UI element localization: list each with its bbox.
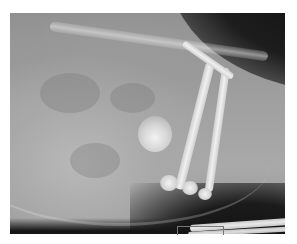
radiopaque-mass [138, 116, 172, 152]
xray-image [10, 13, 285, 234]
gut-shadow [70, 143, 120, 178]
gut-shadow [40, 73, 100, 113]
scale-marker [177, 226, 224, 235]
joint [160, 175, 178, 191]
gut-shadow [110, 83, 155, 113]
joint [182, 181, 198, 195]
joint [198, 188, 212, 200]
